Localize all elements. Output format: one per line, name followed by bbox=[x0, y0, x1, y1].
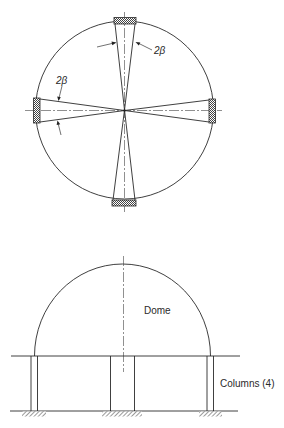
center-point bbox=[123, 109, 125, 111]
dome-arc bbox=[35, 264, 211, 356]
footing-hatch-middle bbox=[102, 412, 142, 417]
angle-label-top: 2β bbox=[153, 45, 166, 56]
wedge-bottom bbox=[113, 110, 135, 200]
footing-hatch-left bbox=[22, 412, 46, 417]
pad-right bbox=[209, 99, 216, 123]
footing-hatch-right bbox=[199, 412, 222, 417]
wedge-right bbox=[125, 100, 210, 122]
pad-top bbox=[114, 18, 136, 25]
arrow-icon bbox=[112, 42, 117, 46]
wedge-top bbox=[115, 24, 135, 110]
angle-label-left: 2β bbox=[55, 75, 68, 86]
pad-bottom bbox=[112, 200, 136, 206]
arrow-icon bbox=[136, 42, 141, 46]
arrow-icon bbox=[57, 121, 61, 126]
pad-left bbox=[34, 98, 41, 123]
column-right bbox=[207, 356, 214, 411]
angle-dimension-left: 2β bbox=[55, 75, 68, 135]
dome-label: Dome bbox=[144, 305, 171, 316]
column-left bbox=[31, 356, 38, 411]
elevation-view: Dome Columns (4) bbox=[10, 256, 274, 417]
plan-view: 2β 2β bbox=[25, 12, 222, 212]
column-middle bbox=[111, 356, 135, 411]
arrow-icon bbox=[57, 97, 61, 102]
dome-structure-diagram: 2β 2β Dome bbox=[0, 0, 284, 428]
columns-label: Columns (4) bbox=[220, 378, 274, 389]
